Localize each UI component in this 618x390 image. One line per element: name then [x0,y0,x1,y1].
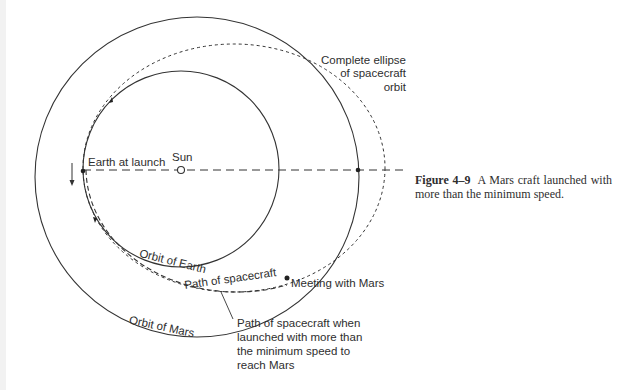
label-complete-ellipse-2: of spacecraft [340,67,407,79]
path-arrow-upper-icon [109,97,113,103]
label-complete-ellipse-3: orbit [384,81,407,93]
note-leader-line [221,292,233,319]
figure-caption: Figure 4–9 A Mars craft launched with mo… [415,173,612,201]
earth-at-launch-dot [81,169,86,174]
label-path-note-3: the minimum speed to [237,345,350,357]
label-path-note-4: reach Mars [237,359,295,371]
label-path-note-1: Path of spacecraft when [237,317,360,329]
label-orbit-of-earth: Orbit of Earth [138,247,207,275]
meeting-dot [285,276,290,281]
label-path-note-2: launched with more than [237,331,362,343]
sun-marker [178,167,185,174]
label-orbit-of-mars: Orbit of Mars [128,314,196,340]
figure-number: Figure 4–9 [415,173,471,187]
label-complete-ellipse-1: Complete ellipse [321,54,406,66]
label-meeting-with-mars: Meeting with Mars [291,277,385,289]
label-earth-at-launch: Earth at launch [88,156,165,168]
mars-axis-crossing-dot [356,168,361,173]
motion-arrow-icon [70,163,75,186]
label-sun: Sun [172,151,192,163]
